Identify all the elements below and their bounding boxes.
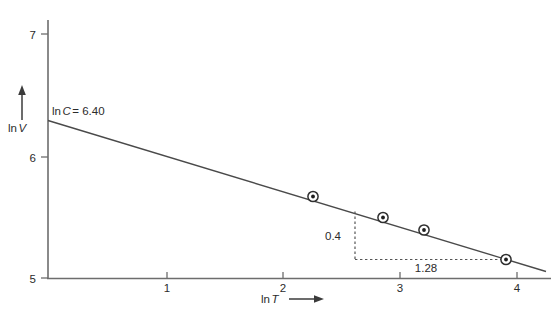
up-arrow-icon <box>18 85 26 95</box>
x-tick-label-1: 1 <box>164 282 170 294</box>
x-tick-label-2: 2 <box>280 282 286 294</box>
y-axis-title: lnV <box>8 122 27 134</box>
slope-rise-label: 0.4 <box>325 230 342 242</box>
right-arrow-icon <box>314 295 324 303</box>
y-axis-title-prefix: ln <box>8 122 17 134</box>
marker-dot <box>311 195 315 199</box>
slope-triangle: 0.4 1.28 <box>325 212 505 275</box>
x-axis-title-prefix: ln <box>261 293 270 305</box>
intercept-var: C <box>62 105 71 117</box>
axes-group <box>47 20 551 279</box>
x-tick-label-3: 3 <box>397 282 403 294</box>
data-point-markers <box>308 191 511 264</box>
y-tick-label-5: 5 <box>30 273 36 285</box>
intercept-annotation: lnC= 6.40 <box>52 105 105 117</box>
x-axis-title: lnT <box>261 293 279 305</box>
slope-run-label: 1.28 <box>415 262 437 274</box>
y-tick-label-7: 7 <box>30 29 36 41</box>
marker-dot <box>381 216 385 220</box>
intercept-value: = 6.40 <box>72 105 104 117</box>
x-axis-tick-labels: 1 2 3 4 <box>164 282 521 294</box>
y-tick-label-6: 6 <box>30 152 36 164</box>
x-tick-label-4: 4 <box>514 282 521 294</box>
marker-dot <box>504 258 508 262</box>
chart-canvas: 7 6 5 1 2 3 4 lnV lnT <box>0 0 554 318</box>
chart-container: 7 6 5 1 2 3 4 lnV lnT <box>0 0 554 318</box>
marker-dot <box>422 228 426 232</box>
data-point-marker <box>419 225 429 235</box>
x-axis-title-var: T <box>271 293 279 305</box>
data-point-marker <box>501 254 511 264</box>
intercept-prefix: ln <box>52 105 61 117</box>
best-fit-line <box>48 121 546 272</box>
data-point-marker <box>378 212 388 222</box>
y-axis-title-var: V <box>18 122 27 134</box>
y-axis-ticks <box>41 34 48 278</box>
x-axis-title-group: lnT <box>261 293 324 305</box>
data-point-marker <box>308 191 318 201</box>
y-axis-tick-labels: 7 6 5 <box>30 29 36 285</box>
y-axis-title-group: lnV <box>8 85 27 134</box>
